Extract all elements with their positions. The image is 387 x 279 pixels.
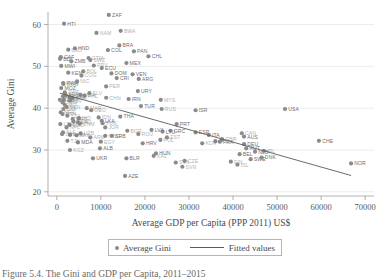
data-point [97, 115, 101, 119]
data-point [59, 64, 63, 68]
data-point [159, 98, 163, 102]
data-point [109, 71, 113, 75]
data-point-label: MAR [90, 105, 102, 111]
data-point [249, 157, 253, 161]
data-point-label: ISR [199, 107, 208, 113]
figure-container: 2030405060010000200003000040000500006000… [0, 0, 387, 279]
data-point [349, 161, 353, 165]
data-point-label: NAM [100, 30, 112, 36]
data-point-label: URY [141, 88, 152, 94]
data-point [71, 119, 75, 123]
data-point [101, 121, 105, 125]
data-point [59, 86, 63, 90]
data-point [180, 165, 184, 169]
data-point-label: PRT [180, 121, 190, 127]
y-axis-title: Average Gini [6, 78, 16, 129]
x-tick-label: 0 [55, 202, 59, 212]
data-point-label: BGR [130, 128, 142, 134]
legend-item-fitted-values: Fitted values [190, 243, 275, 253]
data-point [146, 54, 150, 58]
data-point-label: ARG [142, 76, 153, 82]
data-point [87, 91, 91, 95]
y-tick-label: 20 [33, 187, 42, 197]
data-point-label: ROU [142, 131, 154, 137]
data-point-label: PRY [97, 62, 108, 68]
data-point-label: THA [123, 113, 134, 119]
data-point [58, 122, 62, 126]
data-point [58, 98, 62, 102]
filled-circle-marker-icon [115, 246, 119, 250]
data-point [60, 132, 64, 136]
data-point [86, 56, 90, 60]
data-point [174, 160, 178, 164]
legend-label-average-gini: Average Gini [123, 243, 171, 253]
data-point [79, 73, 83, 77]
data-point-label: NIC [80, 78, 89, 84]
data-point-label: CRI [120, 75, 129, 81]
data-point [136, 89, 140, 93]
data-point [141, 141, 145, 145]
data-point [317, 139, 321, 143]
data-point-label: UKR [96, 155, 107, 161]
x-tick-label: 10000 [90, 202, 111, 212]
data-point-label: GTM [92, 55, 104, 61]
data-point-label: TUR [144, 103, 155, 109]
scatter-plot: 2030405060010000200003000040000500006000… [0, 0, 387, 279]
y-tick-label: 30 [33, 145, 42, 155]
data-point [66, 71, 70, 75]
data-point [107, 13, 111, 17]
data-point [66, 48, 70, 52]
data-point-label: SVN [186, 164, 197, 170]
x-tick-label: 30000 [178, 202, 199, 212]
data-point [118, 114, 122, 118]
data-point-label: MDA [81, 139, 93, 145]
data-point-label: CHL [152, 53, 163, 59]
data-point-label: BRA [123, 42, 134, 48]
data-point [62, 22, 66, 26]
data-point [229, 160, 233, 164]
x-tick-label: 50000 [266, 202, 287, 212]
data-point [85, 106, 89, 110]
data-point-label: RUS [165, 106, 177, 112]
data-point-label: JOR [108, 124, 119, 130]
x-tick-label: 60000 [311, 202, 332, 212]
data-point [158, 138, 162, 142]
data-point [106, 48, 110, 52]
data-point [75, 79, 79, 83]
data-point [283, 107, 287, 111]
data-point-label: CAN [245, 130, 256, 136]
data-point [60, 112, 64, 116]
data-point-label: ZMB [75, 58, 87, 64]
y-tick-label: 40 [33, 103, 42, 113]
data-point [124, 156, 128, 160]
data-point [98, 146, 102, 150]
data-point-label: KOR [205, 140, 217, 146]
data-point-label: HRV [146, 140, 157, 146]
data-point-label: YEM [77, 118, 88, 124]
data-point-label: MWI [64, 63, 75, 69]
data-point-label: CHN [109, 95, 121, 101]
data-point [103, 125, 107, 129]
data-point [115, 76, 119, 80]
x-tick-label: 40000 [222, 202, 243, 212]
data-point [160, 107, 164, 111]
data-point [253, 150, 257, 154]
data-point-label: CHE [322, 138, 334, 144]
data-point-label: COD [63, 97, 75, 103]
data-point-label: BEL [243, 151, 253, 157]
data-point-label: MYS [164, 97, 176, 103]
figure-caption: Figure 5.4. The Gini and GDP per Capita,… [0, 269, 387, 279]
data-point-label: ISL [241, 162, 249, 168]
data-point-label: NOR [354, 160, 366, 166]
data-point-label: GIN [65, 131, 75, 137]
data-point [110, 134, 114, 138]
data-point [139, 104, 143, 108]
data-point [92, 63, 96, 67]
data-point [235, 163, 239, 167]
data-point-label: TJK [71, 138, 81, 144]
data-point [104, 96, 108, 100]
data-point-label: EST [170, 134, 180, 140]
data-point-label: ALB [103, 145, 113, 151]
data-point [165, 135, 169, 139]
data-point [240, 131, 244, 135]
